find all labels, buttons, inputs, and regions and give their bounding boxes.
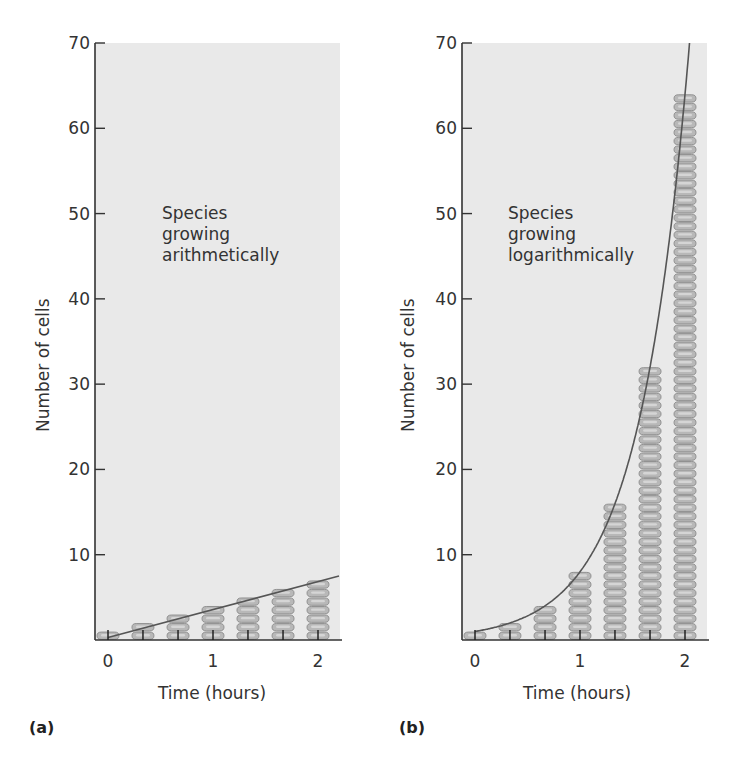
y-tick-label: 50 xyxy=(435,204,457,224)
annotation-b-line1: Species xyxy=(508,203,634,224)
panel-label-a: (a) xyxy=(29,718,54,737)
annotation-b: Species growing logarithmically xyxy=(508,203,634,266)
x-axis-label-a: Time (hours) xyxy=(158,683,266,703)
annotation-b-line3: logarithmically xyxy=(508,245,634,266)
x-tick-label: 0 xyxy=(470,651,481,671)
y-tick-label: 60 xyxy=(68,118,90,138)
y-tick-label: 20 xyxy=(68,459,90,479)
panel-a: 10203040506070012 Number of cells Time (… xyxy=(0,0,367,775)
plot-background xyxy=(95,43,340,640)
annotation-a: Species growing arithmetically xyxy=(162,203,279,266)
annotation-a-line1: Species xyxy=(162,203,279,224)
annotation-a-line2: growing xyxy=(162,224,279,245)
y-tick-label: 30 xyxy=(435,374,457,394)
y-tick-label: 10 xyxy=(68,545,90,565)
y-tick-label: 60 xyxy=(435,118,457,138)
y-tick-label: 40 xyxy=(68,289,90,309)
annotation-a-line3: arithmetically xyxy=(162,245,279,266)
x-tick-label: 2 xyxy=(680,651,691,671)
y-tick-label: 70 xyxy=(68,33,90,53)
y-tick-label: 70 xyxy=(435,33,457,53)
y-tick-label: 20 xyxy=(435,459,457,479)
chart-a-plot: 10203040506070012 xyxy=(0,0,367,775)
plot-background xyxy=(462,43,707,640)
y-axis-label-b: Number of cells xyxy=(398,298,418,432)
panel-b: 10203040506070012 Number of cells Time (… xyxy=(367,0,734,775)
y-tick-label: 40 xyxy=(435,289,457,309)
x-axis-label-b: Time (hours) xyxy=(523,683,631,703)
x-tick-label: 1 xyxy=(208,651,219,671)
x-tick-label: 2 xyxy=(313,651,324,671)
y-tick-label: 50 xyxy=(68,204,90,224)
y-tick-label: 30 xyxy=(68,374,90,394)
chart-b-plot: 10203040506070012 xyxy=(367,0,734,775)
panel-label-b: (b) xyxy=(399,718,425,737)
x-tick-label: 1 xyxy=(575,651,586,671)
y-tick-label: 10 xyxy=(435,545,457,565)
annotation-b-line2: growing xyxy=(508,224,634,245)
y-axis-label-a: Number of cells xyxy=(33,298,53,432)
x-tick-label: 0 xyxy=(103,651,114,671)
